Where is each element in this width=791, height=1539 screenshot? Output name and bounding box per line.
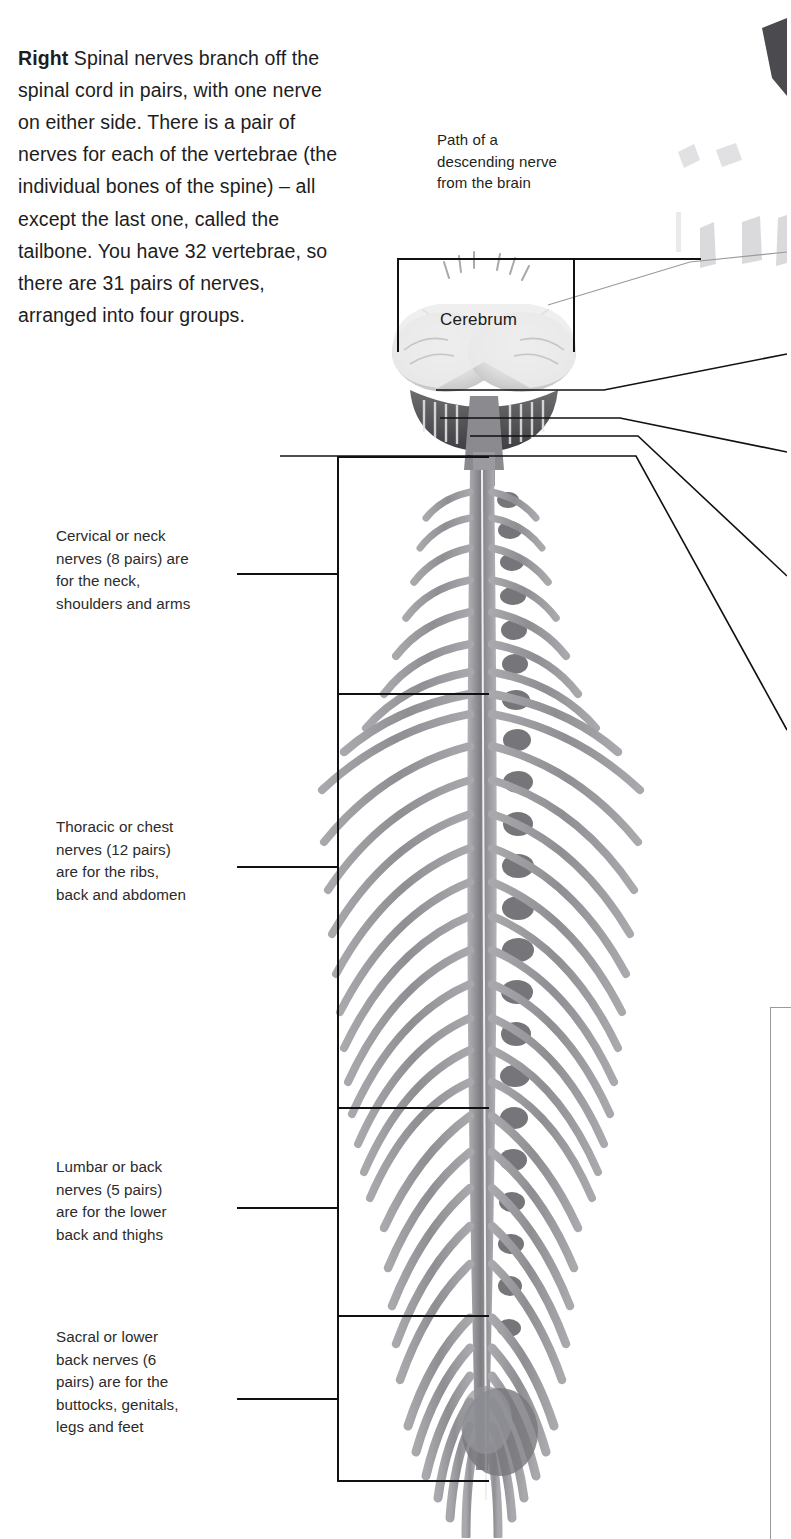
cropped-anatomy-shape-top-right	[762, 18, 787, 96]
thoracic-leader-line	[237, 866, 338, 868]
cervical-bracket-bottom-arm	[337, 693, 489, 695]
brain-illustration	[392, 252, 576, 486]
nerve-group-label-thoracic: Thoracic or chest nerves (12 pairs) are …	[56, 816, 231, 906]
lumbar-bracket-bottom-arm	[337, 1315, 489, 1317]
cerebrum-bracket-left	[397, 258, 399, 352]
nerve-group-label-sacral: Sacral or lower back nerves (6 pairs) ar…	[56, 1326, 231, 1439]
thoracic-bracket-spine	[337, 693, 339, 1107]
lumbar-leader-line	[237, 1207, 338, 1209]
thoracic-bracket-bottom-arm	[337, 1107, 489, 1109]
intro-lead-word: Right	[18, 47, 68, 69]
cropped-anatomy-fragments	[676, 143, 787, 268]
spinal-cord-and-nerves	[322, 470, 640, 1536]
nerve-group-label-lumbar: Lumbar or back nerves (5 pairs) are for …	[56, 1156, 231, 1246]
intro-paragraph: Right Spinal nerves branch off the spina…	[18, 42, 348, 332]
cropped-side-panel	[770, 1007, 791, 1539]
cerebrum-bracket-stem	[573, 258, 701, 260]
callout-descending-nerve: Path of a descending nerve from the brai…	[437, 129, 587, 194]
sacral-leader-line	[237, 1398, 338, 1400]
sacral-bracket-bottom-arm	[337, 1480, 489, 1482]
cervical-bracket-top-arm	[337, 456, 489, 458]
callout-cerebrum: Cerebrum	[440, 310, 517, 330]
cervical-leader-line	[237, 573, 338, 575]
nerve-group-label-cervical: Cervical or neck nerves (8 pairs) are fo…	[56, 525, 231, 615]
cerebrum-bracket-right	[573, 258, 575, 352]
cerebrum-bracket-top	[397, 258, 575, 260]
lumbar-bracket-spine	[337, 1107, 339, 1315]
intro-body-text: Spinal nerves branch off the spinal cord…	[18, 47, 337, 327]
